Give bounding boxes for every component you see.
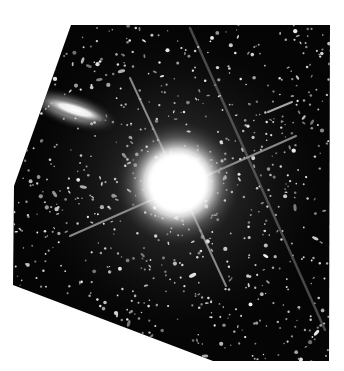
bright-star-core xyxy=(148,153,208,213)
astronomical-image xyxy=(0,0,344,371)
